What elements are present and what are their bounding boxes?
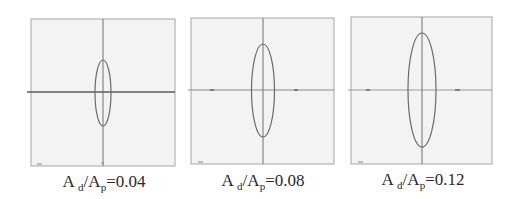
caption-symbol-A: A (382, 170, 393, 189)
caption-symbol-A: A (222, 171, 233, 190)
panel-3-caption: A d/Ap=0.12 (382, 171, 465, 191)
caption-value: =0.12 (425, 170, 464, 189)
caption-symbol-A: A (63, 172, 74, 191)
caption-value: =0.04 (106, 172, 145, 191)
caption-symbol-A: A (407, 170, 419, 189)
caption-symbol-A: A (247, 171, 259, 190)
figure: A d/Ap=0.04 A d/Ap=0.08 A d/Ap=0.12 (0, 0, 514, 199)
plot-panel-3 (348, 17, 492, 164)
caption-value: =0.08 (265, 171, 304, 190)
panel-2-caption: A d/Ap=0.08 (222, 172, 305, 192)
panel-1-caption: A d/Ap=0.04 (63, 173, 146, 193)
plot-panel-2 (188, 18, 334, 164)
plot-panel-1 (27, 19, 175, 166)
caption-symbol-A: A (88, 172, 100, 191)
